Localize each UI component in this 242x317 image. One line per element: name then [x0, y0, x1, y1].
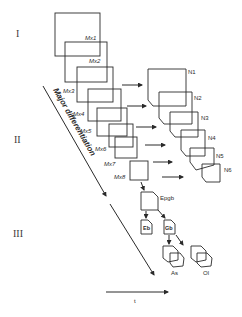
major-differentiation-arrow-upper [43, 86, 106, 196]
epgb-box [141, 192, 158, 210]
major-differentiation-arrow-lower [110, 204, 154, 275]
major-differentiation-label: Major differentiation [51, 87, 97, 158]
n5-label: N5 [216, 153, 224, 159]
n2-label: N2 [194, 95, 202, 101]
mx5-box [97, 108, 127, 136]
mx1-label: Mx1 [85, 35, 96, 41]
n6-box [202, 164, 220, 182]
mx8-label: Mx8 [114, 174, 126, 180]
n6-label: N6 [224, 167, 232, 173]
n4-label: N4 [208, 135, 216, 141]
gb-to-ol-arrow [176, 235, 183, 245]
n-boxes [148, 69, 220, 182]
ol-label: Ol [203, 270, 209, 276]
mx7-label: Mx7 [104, 161, 116, 167]
n1-label: N1 [188, 69, 196, 75]
mx3-box [77, 67, 113, 102]
stage-label-1: I [16, 28, 19, 39]
mx2-label: Mx2 [89, 58, 101, 64]
as-label: As [171, 270, 178, 276]
diagram-canvas: I II III Mx1 Mx2 Mx3 Mx4 Mx5 Mx6 Mx7 Mx8 [0, 0, 242, 317]
eb-label: Eb [143, 225, 151, 231]
mx8-to-epgb-arrow [141, 182, 144, 190]
mx2-box [65, 42, 107, 82]
n2-box [159, 92, 192, 124]
ol-cell-1 [191, 246, 206, 262]
n3-label: N3 [201, 115, 209, 121]
mx6-box [109, 124, 133, 147]
n4-box [181, 130, 205, 156]
epgb-to-gb-arrow [158, 210, 165, 218]
mx-to-n-arrows [122, 85, 183, 177]
n3-box [170, 112, 198, 137]
time-label: t [134, 298, 136, 304]
stage-label-2: II [14, 134, 21, 145]
n1-box [148, 69, 186, 106]
epgb-label: Epgb [160, 195, 175, 201]
mx8-box [130, 161, 148, 180]
gb-label: Gb [165, 225, 173, 231]
mx7-box [115, 137, 137, 158]
mx3-label: Mx3 [63, 88, 75, 94]
as-cell-1 [163, 246, 178, 262]
mx4-box [88, 89, 121, 121]
stage-label-3: III [13, 228, 23, 239]
mx-boxes [55, 13, 148, 180]
